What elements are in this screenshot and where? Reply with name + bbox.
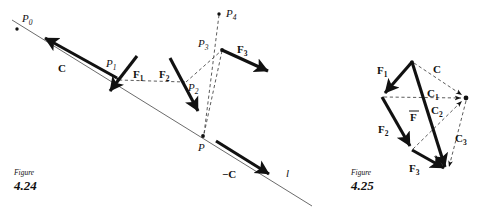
label-vector-F3: F3 bbox=[237, 43, 248, 58]
label-vector-C-right: C bbox=[433, 63, 441, 75]
label-vector-C1: C1 bbox=[427, 87, 439, 102]
caption-word-4-25: Figure bbox=[350, 168, 372, 177]
point-P1-dot bbox=[117, 78, 120, 81]
label-P3: P3 bbox=[197, 37, 209, 52]
label-P1: P1 bbox=[105, 57, 116, 72]
caption-number-4-24: 4.24 bbox=[13, 178, 37, 193]
vector-F2-right-arrow bbox=[382, 97, 410, 146]
label-P4: P4 bbox=[225, 7, 237, 22]
label-P0: P0 bbox=[21, 12, 33, 27]
figure-4-24-group: P0 P1 P2 P3 P4 P C F1 F2 F3 −C l Figure … bbox=[12, 7, 312, 206]
point-P0-dot bbox=[15, 27, 18, 30]
label-vector-Fbar-text: F bbox=[410, 111, 417, 123]
caption-number-4-25: 4.25 bbox=[350, 178, 374, 193]
label-vector-F2-right: F2 bbox=[378, 123, 389, 138]
point-P-dot bbox=[201, 134, 205, 138]
label-vector-C2: C2 bbox=[431, 104, 443, 119]
point-P4-dot bbox=[217, 12, 220, 15]
label-vector-C3: C3 bbox=[455, 132, 467, 147]
vector-F1-right-arrow bbox=[385, 62, 412, 93]
label-line-l: l bbox=[286, 167, 289, 179]
line-l-stroke bbox=[12, 20, 312, 206]
label-vector-Fbar: F bbox=[409, 111, 419, 123]
dashed-p1-p2 bbox=[119, 80, 185, 82]
figure-page: P0 P1 P2 P3 P4 P C F1 F2 F3 −C l Figure … bbox=[0, 0, 491, 211]
dashed-p2-p3 bbox=[186, 51, 221, 82]
label-vector-F1-right: F1 bbox=[377, 64, 388, 79]
label-P: P bbox=[197, 141, 205, 153]
label-vector-C: C bbox=[58, 62, 66, 74]
label-vector-neg-C: −C bbox=[222, 168, 236, 180]
label-vector-F3-right: F3 bbox=[409, 162, 420, 177]
caption-word-4-24: Figure bbox=[13, 168, 35, 177]
vertex-right-dot bbox=[464, 96, 469, 101]
label-vector-F2: F2 bbox=[159, 68, 170, 83]
figure-4-25-group: F1 F2 F3 F C C1 C2 C3 Figure 4.25 bbox=[350, 60, 468, 193]
point-P3-dot bbox=[220, 48, 224, 52]
diagram-canvas: P0 P1 P2 P3 P4 P C F1 F2 F3 −C l Figure … bbox=[0, 0, 491, 211]
vertex-apex-dot bbox=[410, 60, 414, 64]
